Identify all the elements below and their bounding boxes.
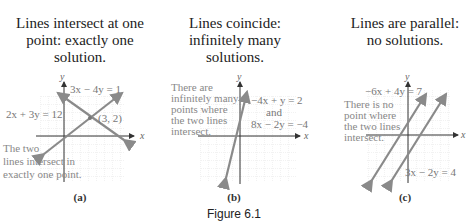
panel-b-eq-2: 8x − 2y = −4 (251, 118, 309, 130)
panel-a-eq-2: 2x + 3y = 12 (6, 108, 62, 120)
panel-c-eq-1: −6x + 4y = 7 (365, 85, 423, 97)
panel-c-annotation-line: intersect. (344, 131, 384, 143)
panel-c-label: (c) (385, 191, 425, 203)
figure-graphs: x y 3x − 4y = 1 2x + 3y = 12 (3, 2) The … (0, 0, 468, 222)
panel-b-x-label: x (303, 130, 309, 141)
panel-a-eq-1: 3x − 4y = 1 (70, 83, 121, 95)
panel-b-eq-and: and (266, 106, 282, 118)
panel-b-y-label: y (236, 71, 242, 82)
figure-caption: Figure 6.1 (0, 207, 468, 221)
panel-a-graph: x y 3x − 4y = 1 2x + 3y = 12 (3, 2) The … (3, 71, 145, 182)
panel-c-x-label: x (460, 129, 466, 140)
panel-b-annotation-line: intersect. (171, 125, 211, 137)
panel-a-annotation-line: lines intersect in (3, 155, 76, 167)
panel-c-eq-2: 3x − 2y = 4 (405, 166, 456, 178)
panel-c-y-label: y (404, 71, 410, 82)
panel-a-label: (a) (60, 191, 100, 203)
panel-c-graph: x y −6x + 4y = 7 3x − 2y = 4 There is no… (344, 71, 466, 183)
panel-a-annotation-line: exactly one point. (3, 168, 82, 180)
panel-b-eq-1: −4x + y = 2 (251, 94, 303, 106)
panel-b-graph: x y −4x + y = 2 and 8x − 2y = −4 There a… (171, 71, 309, 184)
panel-a-point-label: (3, 2) (98, 112, 122, 125)
panel-a-annotation-line: The two (3, 142, 40, 154)
panel-a-x-label: x (139, 130, 145, 141)
panel-a-intersection-point (88, 116, 92, 120)
panel-a-y-label: y (59, 71, 65, 82)
panel-b-label: (b) (214, 191, 254, 203)
